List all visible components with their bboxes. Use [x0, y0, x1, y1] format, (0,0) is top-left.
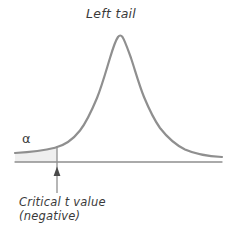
- caption-line-2: (negative): [19, 210, 106, 224]
- t-distribution-curve: [15, 36, 222, 158]
- alpha-label: α: [22, 131, 31, 146]
- caption-line-1: Critical t value: [19, 196, 106, 210]
- caption-word-value: value: [73, 195, 105, 209]
- caption-word-critical: Critical: [19, 195, 61, 209]
- t-distribution-left-tail-figure: Left tail α Critical t value (negative): [0, 0, 230, 235]
- critical-value-arrowhead-icon: [54, 167, 61, 177]
- critical-value-caption: Critical t value (negative): [19, 196, 106, 223]
- figure-title: Left tail: [86, 6, 136, 21]
- caption-variable-t: t: [65, 195, 70, 209]
